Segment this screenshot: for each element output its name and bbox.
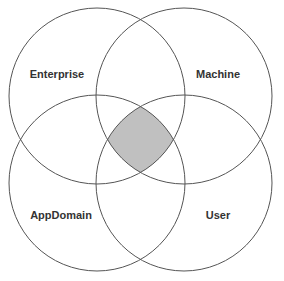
- label-machine: Machine: [196, 68, 240, 80]
- label-enterprise: Enterprise: [30, 68, 84, 80]
- label-user: User: [206, 209, 231, 221]
- venn-diagram: Enterprise Machine AppDomain User: [0, 0, 284, 281]
- intersection-highlight: [96, 95, 272, 271]
- label-appdomain: AppDomain: [30, 209, 92, 221]
